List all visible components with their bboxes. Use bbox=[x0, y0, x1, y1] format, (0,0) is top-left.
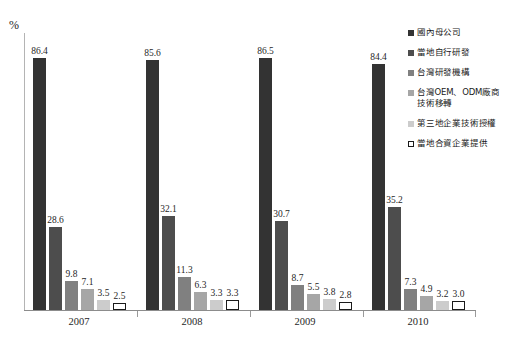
bar-value-label: 6.3 bbox=[195, 280, 207, 290]
bar-value-label: 3.8 bbox=[324, 287, 336, 297]
legend-item[interactable]: 台灣OEM、ODM廠商技術移轉 bbox=[408, 87, 508, 109]
bar-wrap: 3.5 bbox=[97, 33, 110, 310]
bar-value-label: 84.4 bbox=[370, 52, 387, 62]
bar-wrap: 86.5 bbox=[259, 33, 272, 310]
bar-wrap: 11.3 bbox=[178, 33, 191, 310]
legend-item[interactable]: 國內母公司 bbox=[408, 27, 508, 38]
bar bbox=[404, 289, 417, 310]
bar-value-label: 11.3 bbox=[176, 265, 192, 275]
bar-value-label: 3.5 bbox=[98, 288, 110, 298]
bar bbox=[275, 221, 288, 311]
bar-value-label: 4.9 bbox=[421, 284, 433, 294]
bar-value-label: 86.4 bbox=[31, 46, 48, 56]
legend-item[interactable]: 當地自行研發 bbox=[408, 47, 508, 58]
bar bbox=[146, 60, 159, 310]
bar-value-label: 2.5 bbox=[114, 291, 126, 301]
bar-wrap: 2.8 bbox=[339, 33, 352, 310]
bar bbox=[178, 277, 191, 310]
bar bbox=[97, 300, 110, 310]
bar bbox=[323, 299, 336, 310]
bar-wrap: 86.4 bbox=[33, 33, 46, 310]
bar-wrap: 3.3 bbox=[210, 33, 223, 310]
bar bbox=[372, 64, 385, 310]
bar-chart: % 86.428.69.87.13.52.585.632.111.36.33.3… bbox=[0, 0, 509, 347]
x-axis-tick-label: 2007 bbox=[69, 316, 90, 327]
bar-value-label: 3.3 bbox=[211, 288, 223, 298]
bar bbox=[49, 227, 62, 310]
legend-item-label: 國內母公司 bbox=[417, 27, 461, 38]
bar bbox=[162, 216, 175, 310]
bar bbox=[210, 300, 223, 310]
legend-item-label: 當地合資企業提供 bbox=[417, 138, 487, 149]
bar-value-label: 9.8 bbox=[66, 269, 78, 279]
y-axis-line bbox=[24, 33, 25, 311]
x-axis-tick-label: 2008 bbox=[182, 316, 203, 327]
bar-value-label: 7.3 bbox=[405, 277, 417, 287]
bar-value-label: 32.1 bbox=[160, 204, 177, 214]
chart-legend: 國內母公司當地自行研發台灣研發機構台灣OEM、ODM廠商技術移轉第三地企業技術授… bbox=[408, 27, 508, 158]
bar bbox=[65, 281, 78, 310]
bar-wrap: 35.2 bbox=[388, 33, 401, 310]
bar bbox=[291, 285, 304, 310]
y-axis-unit-label: % bbox=[9, 18, 19, 33]
x-axis-tick-label: 2010 bbox=[408, 316, 429, 327]
legend-item-label: 台灣研發機構 bbox=[417, 67, 470, 78]
legend-swatch-icon bbox=[408, 30, 414, 36]
bar-value-label: 85.6 bbox=[144, 48, 161, 58]
bar-wrap: 85.6 bbox=[146, 33, 159, 310]
legend-item[interactable]: 當地合資企業提供 bbox=[408, 138, 508, 149]
bar bbox=[452, 301, 465, 310]
bar-wrap: 3.3 bbox=[226, 33, 239, 310]
legend-item[interactable]: 台灣研發機構 bbox=[408, 67, 508, 78]
bar-value-label: 3.3 bbox=[227, 288, 239, 298]
bar-value-label: 35.2 bbox=[386, 195, 403, 205]
x-axis-group-tick bbox=[250, 311, 251, 317]
bar bbox=[307, 294, 320, 310]
legend-swatch-icon bbox=[408, 50, 414, 56]
legend-swatch-icon bbox=[408, 141, 414, 147]
bar bbox=[436, 301, 449, 310]
legend-swatch-icon bbox=[408, 121, 414, 127]
bar bbox=[194, 292, 207, 310]
bar bbox=[113, 303, 126, 310]
bar-value-label: 8.7 bbox=[292, 273, 304, 283]
bar bbox=[33, 58, 46, 310]
bar-value-label: 86.5 bbox=[257, 46, 274, 56]
bar-wrap: 28.6 bbox=[49, 33, 62, 310]
x-axis-group-tick bbox=[363, 311, 364, 317]
bar-value-label: 7.1 bbox=[82, 277, 94, 287]
legend-swatch-icon bbox=[408, 70, 414, 76]
bar bbox=[259, 58, 272, 310]
bar-wrap: 7.1 bbox=[81, 33, 94, 310]
bar-wrap: 84.4 bbox=[372, 33, 385, 310]
bar-value-label: 3.2 bbox=[437, 289, 449, 299]
bar bbox=[81, 289, 94, 310]
x-axis-group-tick bbox=[137, 311, 138, 317]
bar bbox=[388, 207, 401, 310]
bar-wrap: 3.8 bbox=[323, 33, 336, 310]
bar-value-label: 30.7 bbox=[273, 209, 290, 219]
bar-group: 85.632.111.36.33.33.3 bbox=[146, 33, 242, 310]
bar-group: 86.428.69.87.13.52.5 bbox=[33, 33, 129, 310]
bar-value-label: 3.0 bbox=[453, 289, 465, 299]
bar-wrap: 2.5 bbox=[113, 33, 126, 310]
x-axis-end-tick bbox=[475, 311, 476, 317]
bar-wrap: 5.5 bbox=[307, 33, 320, 310]
bar-value-label: 28.6 bbox=[47, 215, 64, 225]
x-axis-tick-label: 2009 bbox=[295, 316, 316, 327]
bar-wrap: 30.7 bbox=[275, 33, 288, 310]
bar bbox=[226, 300, 239, 310]
bar-value-label: 5.5 bbox=[308, 282, 320, 292]
bar-value-label: 2.8 bbox=[340, 290, 352, 300]
legend-item-label: 當地自行研發 bbox=[417, 47, 470, 58]
bar-wrap: 32.1 bbox=[162, 33, 175, 310]
bar bbox=[420, 296, 433, 310]
legend-item-label: 台灣OEM、ODM廠商技術移轉 bbox=[417, 87, 508, 109]
bar-group: 86.530.78.75.53.82.8 bbox=[259, 33, 355, 310]
legend-swatch-icon bbox=[408, 90, 414, 96]
bar-wrap: 9.8 bbox=[65, 33, 78, 310]
bar-wrap: 8.7 bbox=[291, 33, 304, 310]
bar bbox=[339, 302, 352, 310]
legend-item[interactable]: 第三地企業技術授權 bbox=[408, 118, 508, 129]
legend-item-label: 第三地企業技術授權 bbox=[417, 118, 496, 129]
